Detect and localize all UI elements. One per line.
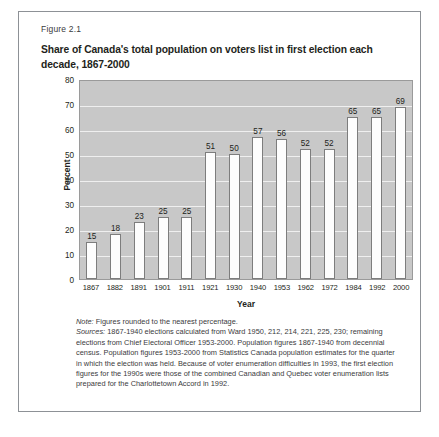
- sources-text: 1867-1940 elections calculated from Ward…: [76, 327, 395, 388]
- y-axis-tick-label: 10: [65, 251, 74, 260]
- y-axis-tick-label: 70: [65, 101, 74, 110]
- y-axis-tick-label: 50: [65, 151, 74, 160]
- figure-number: Figure 2.1: [41, 24, 81, 34]
- bar-slot: 57: [246, 81, 270, 279]
- x-axis-tick-label: 1940: [246, 283, 270, 297]
- bar-slot: 69: [388, 81, 412, 279]
- bar[interactable]: [110, 234, 121, 279]
- x-axis-tick-label: 1972: [318, 283, 342, 297]
- plot-area: 1518232525515057565252656569: [79, 80, 413, 280]
- bar[interactable]: [300, 149, 311, 279]
- bar[interactable]: [205, 152, 216, 280]
- bar[interactable]: [252, 137, 263, 280]
- bar-slot: 23: [127, 81, 151, 279]
- bar-slot: 52: [317, 81, 341, 279]
- bar-value-label: 50: [222, 144, 246, 153]
- x-axis-tick-label: 1911: [174, 283, 198, 297]
- x-axis-tick-label: 1867: [79, 283, 103, 297]
- y-axis-tick-label: 20: [65, 226, 74, 235]
- bar-slot: 65: [341, 81, 365, 279]
- bar-value-label: 51: [199, 142, 223, 151]
- x-axis-tick-label: 1882: [103, 283, 127, 297]
- sources-label: Sources:: [76, 327, 105, 336]
- bar-value-label: 15: [80, 232, 104, 241]
- x-axis-tick-label: 1921: [198, 283, 222, 297]
- bar-value-label: 65: [365, 107, 389, 116]
- bar-value-label: 52: [293, 139, 317, 148]
- x-axis-tick-label: 1984: [341, 283, 365, 297]
- bar[interactable]: [134, 222, 145, 280]
- note-text: Figures rounded to the nearest percentag…: [94, 317, 238, 326]
- y-axis-tick-label: 30: [65, 201, 74, 210]
- bar-slot: 51: [199, 81, 223, 279]
- bar[interactable]: [276, 139, 287, 279]
- figure-frame: Figure 2.1 Share of Canada's total popul…: [18, 11, 421, 412]
- bar[interactable]: [395, 107, 406, 280]
- bar-slot: 56: [270, 81, 294, 279]
- bar[interactable]: [229, 154, 240, 279]
- x-axis-title: Year: [79, 299, 413, 309]
- footnotes: Note: Figures rounded to the nearest per…: [76, 317, 400, 390]
- bar[interactable]: [371, 117, 382, 280]
- bar-value-label: 69: [388, 97, 412, 106]
- note-line: Note: Figures rounded to the nearest per…: [76, 317, 400, 327]
- bar[interactable]: [158, 217, 169, 280]
- bar-slot: 52: [293, 81, 317, 279]
- bar[interactable]: [181, 217, 192, 280]
- bar-slot: 25: [175, 81, 199, 279]
- bar-slot: 15: [80, 81, 104, 279]
- bar-value-label: 25: [151, 207, 175, 216]
- bar-slot: 25: [151, 81, 175, 279]
- bar-value-label: 18: [104, 224, 128, 233]
- bar-value-label: 56: [270, 129, 294, 138]
- y-axis-tick-label: 60: [65, 126, 74, 135]
- sources-line: Sources: 1867-1940 elections calculated …: [76, 327, 400, 389]
- note-label: Note:: [76, 317, 94, 326]
- bar-chart: Percent 01020304050607080 15182325255150…: [41, 80, 413, 310]
- x-axis-tick-label: 1930: [222, 283, 246, 297]
- x-axis-tick-label: 2000: [389, 283, 413, 297]
- y-axis-tick-label: 40: [65, 176, 74, 185]
- bar-series: 1518232525515057565252656569: [80, 81, 412, 279]
- bar-slot: 65: [365, 81, 389, 279]
- bar-value-label: 23: [127, 212, 151, 221]
- y-axis-tick-label: 80: [65, 76, 74, 85]
- x-axis-tick-label: 1901: [151, 283, 175, 297]
- bar[interactable]: [86, 242, 97, 280]
- y-axis-ticks: 01020304050607080: [53, 80, 77, 280]
- y-axis-tick-label: 0: [69, 276, 74, 285]
- bar-slot: 18: [104, 81, 128, 279]
- x-axis-tick-label: 1962: [294, 283, 318, 297]
- bar-value-label: 52: [317, 139, 341, 148]
- x-axis-tick-label: 1891: [127, 283, 151, 297]
- bar-slot: 50: [222, 81, 246, 279]
- x-axis-tick-label: 1953: [270, 283, 294, 297]
- figure-title: Share of Canada's total population on vo…: [41, 43, 391, 72]
- bar-value-label: 57: [246, 127, 270, 136]
- bar-value-label: 25: [175, 207, 199, 216]
- bar[interactable]: [347, 117, 358, 280]
- bar-value-label: 65: [341, 107, 365, 116]
- x-axis-ticks: 1867188218911901191119211930194019531962…: [79, 283, 413, 297]
- x-axis-tick-label: 1992: [365, 283, 389, 297]
- bar[interactable]: [324, 149, 335, 279]
